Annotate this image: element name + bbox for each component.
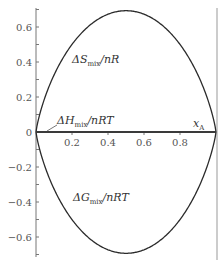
y-tick-label: 0.2 — [16, 92, 32, 103]
y-tick-label: 0.4 — [16, 57, 32, 68]
x-axis-label: xA — [193, 117, 205, 132]
x-tick-label: 0.6 — [136, 137, 152, 148]
y-tick-label: −0.6 — [8, 232, 32, 243]
y-tick-label: 0.6 — [16, 22, 32, 33]
enthalpy-label: ΔHmix/nRT — [56, 114, 115, 129]
enthalpy-leader-line — [47, 125, 57, 131]
axes — [36, 8, 217, 260]
x-tick-label: 0.2 — [64, 137, 80, 148]
y-tick-label: −0.4 — [8, 197, 32, 208]
x-tick-label: 0.4 — [100, 137, 116, 148]
mixing-thermodynamics-chart: 0.60.40.20−0.2−0.4−0.60.20.40.60.8ΔSmix/… — [0, 0, 222, 265]
curves — [36, 11, 216, 254]
gibbs-label: ΔGmix/nRT — [72, 191, 130, 206]
y-tick-label: 0 — [26, 127, 32, 138]
x-tick-label: 0.8 — [172, 137, 188, 148]
y-tick-label: −0.2 — [8, 162, 32, 173]
entropy-label: ΔSmix/nR — [71, 53, 119, 68]
